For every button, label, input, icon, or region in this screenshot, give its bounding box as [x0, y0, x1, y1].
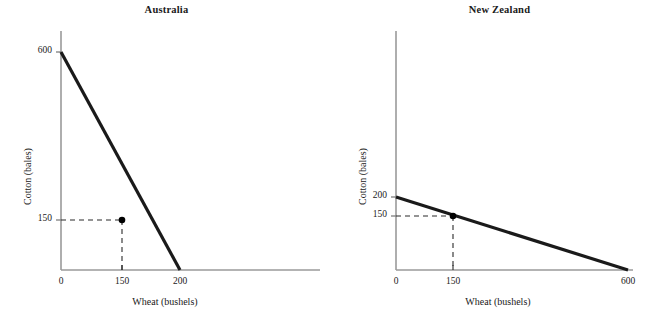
- x-tick-label-600-newzealand: 600: [613, 276, 643, 286]
- production-point-newzealand: [450, 213, 457, 220]
- ppf-line-newzealand: [396, 197, 628, 270]
- y-axis-title-newzealand: Cotton (bales): [357, 148, 368, 205]
- y-tick-label-150-australia: 150: [18, 213, 52, 223]
- x-tick-label-150-newzealand: 150: [438, 276, 468, 286]
- x-axis-title-australia: Wheat (bushels): [100, 296, 230, 307]
- ppf-line-australia: [61, 52, 180, 270]
- chart-panel-newzealand: New Zealand 200 150 0 150 600: [333, 0, 666, 322]
- x-tick-label-200-australia: 200: [165, 276, 195, 286]
- x-tick-label-0-newzealand: 0: [385, 276, 407, 286]
- x-tick-label-150-australia: 150: [107, 276, 137, 286]
- x-tick-label-0-australia: 0: [50, 276, 72, 286]
- x-axis-title-newzealand: Wheat (bushels): [433, 296, 563, 307]
- y-axis-title-australia: Cotton (bales): [22, 148, 33, 205]
- y-tick-label-150-newzealand: 150: [353, 209, 387, 219]
- plot-area-newzealand: [333, 0, 666, 322]
- figure-root: Australia 600 150 0 150 200: [0, 0, 666, 322]
- chart-panel-australia: Australia 600 150 0 150 200: [0, 0, 333, 322]
- y-tick-label-600-australia: 600: [18, 45, 52, 55]
- production-point-australia: [119, 217, 126, 224]
